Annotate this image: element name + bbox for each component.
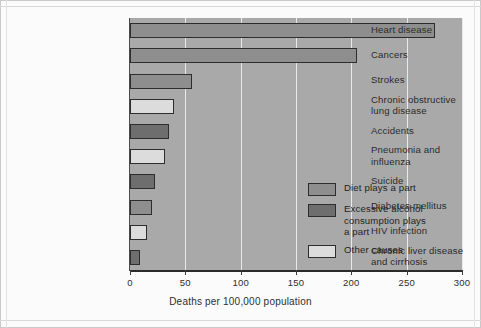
legend-label-line: Excessive alcohol: [344, 203, 456, 215]
x-axis-tick: [130, 270, 131, 275]
category-label: Chronic obstructivelung disease: [355, 94, 481, 117]
x-axis-tick-label: 250: [398, 277, 414, 288]
bar: [130, 225, 147, 240]
x-axis-tick-label: 150: [288, 277, 304, 288]
legend-swatch: [308, 204, 336, 217]
x-axis-tick: [185, 270, 186, 275]
category-label-line: Strokes: [355, 74, 481, 86]
legend-item: Excessive alcoholconsumption playsa part: [308, 203, 456, 238]
bar: [130, 99, 174, 114]
category-label-line: Chronic obstructive: [355, 94, 481, 106]
y-axis-line: [129, 18, 130, 271]
frame-rule-bottom: [0, 320, 481, 321]
x-axis-tick-label: 100: [232, 277, 248, 288]
x-axis-tick: [296, 270, 297, 275]
category-label: Strokes: [355, 74, 481, 86]
category-label: Cancers: [355, 49, 481, 61]
x-axis-tick-label: 200: [343, 277, 359, 288]
x-axis-tick: [407, 270, 408, 275]
category-label: Pneumonia andinfluenza: [355, 144, 481, 167]
legend-item: Diet plays a part: [308, 182, 456, 197]
bar: [130, 124, 169, 139]
chart-figure: 050100150200250300 Heart diseaseCancersS…: [0, 0, 481, 328]
x-axis-tick: [462, 270, 463, 275]
category-label-line: Heart disease: [355, 24, 481, 36]
x-axis-tick: [351, 270, 352, 275]
chart-legend: Diet plays a partExcessive alcoholconsum…: [308, 182, 456, 265]
x-axis-label: Deaths per 100,000 population: [0, 296, 481, 307]
bar: [130, 200, 152, 215]
legend-label-line: Other causes: [344, 244, 456, 256]
category-label-line: Cancers: [355, 49, 481, 61]
x-axis-tick: [241, 270, 242, 275]
bar: [130, 74, 192, 89]
legend-label-line: a part: [344, 226, 456, 238]
bar: [130, 149, 165, 164]
legend-label-line: Diet plays a part: [344, 182, 456, 194]
x-axis-tick-label: 300: [454, 277, 470, 288]
frame-rule-top: [0, 6, 481, 7]
bar: [130, 250, 140, 265]
category-label-line: Pneumonia and: [355, 144, 481, 156]
legend-item: Other causes: [308, 244, 456, 259]
category-label-line: influenza: [355, 156, 481, 168]
x-axis-tick-label: 50: [180, 277, 191, 288]
legend-label-line: consumption plays: [344, 215, 456, 227]
legend-swatch: [308, 245, 336, 258]
category-label-line: Accidents: [355, 125, 481, 137]
frame-rule-left: [6, 0, 7, 328]
category-label: Heart disease: [355, 24, 481, 36]
bar: [130, 48, 357, 63]
x-axis-tick-label: 0: [127, 277, 132, 288]
category-label: Accidents: [355, 125, 481, 137]
category-label-line: lung disease: [355, 105, 481, 117]
legend-swatch: [308, 183, 336, 196]
bar: [130, 174, 155, 189]
